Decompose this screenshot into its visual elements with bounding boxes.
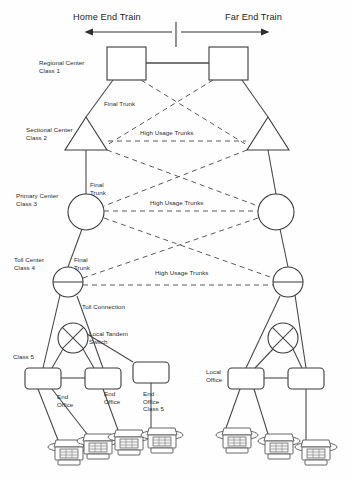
final-trunk-right-c1-c2 xyxy=(242,80,268,117)
end-office-right-a-node xyxy=(228,368,264,389)
final-trunk-label-3: Final Trunk xyxy=(74,256,90,271)
high-usage-left-c2-to-right-c3 xyxy=(107,150,258,206)
final-trunk-right-c3-c4 xyxy=(280,229,288,267)
primary-center-label: Primary Center Class 3 xyxy=(16,192,58,207)
final-trunk-right-c2-c3 xyxy=(268,150,276,194)
tandem-link-left-a xyxy=(52,349,63,368)
telephone-right-1 xyxy=(216,428,258,453)
primary-center-left-node xyxy=(68,194,104,230)
home-end-train-title: Home End Train xyxy=(73,12,141,23)
regional-center-left-node xyxy=(107,47,146,80)
toll-center-label: Toll Center Class 4 xyxy=(14,256,44,271)
regional-center-right-node xyxy=(209,47,248,80)
high-usage-trunks-label-1: High Usage Trunks xyxy=(140,129,193,137)
final-trunk-label-1: Final Trunk xyxy=(104,100,135,108)
subscriber-loop-right-1 xyxy=(226,389,240,428)
class5-label: Class 5 xyxy=(13,353,34,361)
end-office-label-1: End Office xyxy=(57,393,73,408)
end-office-right-b-node xyxy=(288,368,324,389)
far-end-train-title: Far End Train xyxy=(225,12,282,23)
local-tandem-switch-label: Local Tandem Switch xyxy=(89,330,128,345)
telephone-left-4 xyxy=(141,428,183,453)
sectional-center-label: Sectional Center Class 2 xyxy=(26,126,73,141)
end-office-label-2: End Office xyxy=(104,390,120,405)
subscriber-loop-right-2 xyxy=(254,389,268,434)
end-office-left-b-node xyxy=(85,368,121,389)
final-trunk-left-c1-c2 xyxy=(86,80,113,117)
primary-center-right-node xyxy=(258,194,294,230)
telephone-right-2 xyxy=(258,434,300,459)
telephone-right-3 xyxy=(295,440,337,465)
toll-connection-left-a xyxy=(43,295,60,368)
subscriber-loop-left-1 xyxy=(38,389,58,440)
high-usage-trunks-label-2: High Usage Trunks xyxy=(150,199,203,207)
regional-center-label: Regional Center Class 1 xyxy=(39,59,84,74)
tandem-link-left-b xyxy=(83,349,94,368)
end-office-label-3: End Office Class 5 xyxy=(143,390,164,413)
local-office-label: Local Office xyxy=(206,368,222,383)
high-usage-trunks-label-3: High Usage Trunks xyxy=(155,269,208,277)
end-office-left-c-node xyxy=(133,362,169,383)
end-office-left-a-node xyxy=(25,368,61,389)
final-trunk-label-2: Final Trunk xyxy=(90,181,106,196)
tandem-link-right-a xyxy=(255,349,273,368)
toll-connection-label: Toll Connection xyxy=(82,303,125,311)
sectional-center-right-node xyxy=(247,117,289,150)
high-usage-right-c2-to-left-c3 xyxy=(104,150,247,206)
tandem-link-right-b xyxy=(293,349,302,368)
network-hierarchy-diagram: Home End Train Far End Train Regional Ce… xyxy=(0,0,353,481)
